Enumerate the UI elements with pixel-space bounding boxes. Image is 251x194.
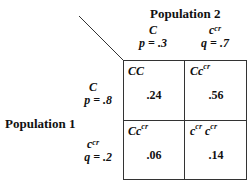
cell-genotype-Cccr: Cccr xyxy=(190,64,210,79)
row-frequency: p = .8 xyxy=(52,94,112,107)
row-header-C: C p = .8 xyxy=(52,81,112,107)
cell-genotype-CC: CC xyxy=(128,64,144,79)
column-header-C: C p = .3 xyxy=(128,24,178,50)
cell-genotype-Cccr-lower: Cccr xyxy=(128,124,148,139)
population-2-title: Population 2 xyxy=(150,6,220,22)
grid-divider-horizontal xyxy=(123,120,247,121)
cell-genotype-ccrccr: ccr ccr xyxy=(190,124,217,139)
row-frequency: q = .2 xyxy=(52,151,112,164)
row-header-ccr: ccr q = .2 xyxy=(52,138,112,164)
column-header-ccr: ccr q = .7 xyxy=(190,24,240,50)
column-frequency: q = .7 xyxy=(190,37,240,50)
cell-value-Cccr-lower: .06 xyxy=(134,148,174,163)
cell-value-ccrccr: .14 xyxy=(196,148,236,163)
population-1-title: Population 1 xyxy=(5,116,75,132)
column-frequency: p = .3 xyxy=(128,37,178,50)
cell-value-Cccr: .56 xyxy=(196,88,236,103)
cell-value-CC: .24 xyxy=(134,88,174,103)
